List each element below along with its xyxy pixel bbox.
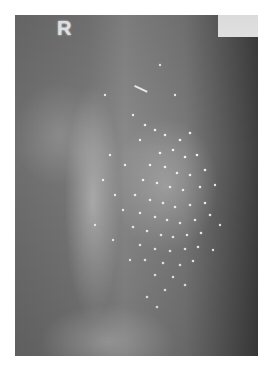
side-marker: R: [57, 17, 71, 40]
film-label-box: [218, 15, 258, 37]
radiograph-image: R: [15, 15, 258, 356]
pellet-overlay: [15, 15, 258, 356]
